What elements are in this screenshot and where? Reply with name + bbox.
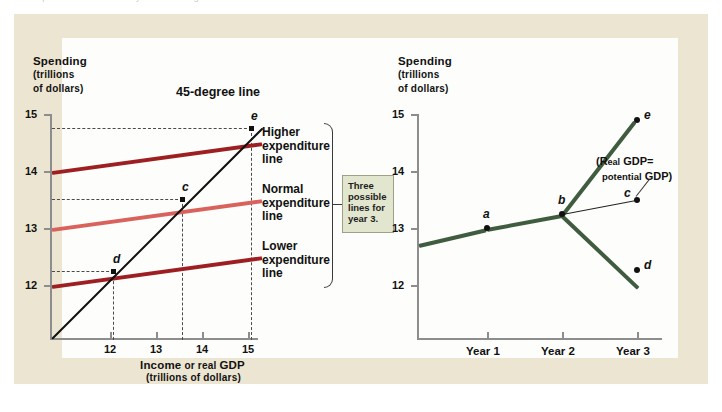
normal-label-row-0: Normal [262,183,330,197]
left-point-d-label: d [113,252,120,266]
callout-line-3: year 3. [348,213,388,224]
left-x-tick-13 [156,332,158,340]
lower-label-row-0: Lower [262,240,330,254]
higher-label-row-1: expenditure [262,140,330,154]
left-x-axis-subtitle: (trillions of dollars) [146,372,241,383]
figure-root: expenditure line for the years 1 through… [0,0,722,412]
right-point-d-label: d [644,258,651,272]
normal-expenditure-line-label: Normal expenditure line [262,183,330,224]
right-y-tick-15 [411,114,419,116]
lower-label-row-1: expenditure [262,254,330,268]
dashed-ref-c-horizontal [52,199,183,200]
normal-label-row-1: expenditure [262,197,330,211]
right-point-a-marker [484,225,490,231]
callout-line-1: possible [348,191,388,202]
potential-gdp-annotation-line1: (Real GDP= [596,155,653,169]
right-y-ticklabel-13: 13 [392,222,404,234]
left-x-ticklabel-15: 15 [242,343,254,355]
left-y-axis-title-line1: Spending [33,55,87,67]
right-y-axis [417,114,419,339]
left-x-tick-12 [110,332,112,340]
left-y-ticklabel-13: 13 [25,222,37,234]
left-y-ticklabel-12: 12 [25,279,37,291]
higher-expenditure-line-label: Higher expenditure line [262,126,330,167]
bracket-leader [332,204,342,205]
lower-label-row-2: line [262,267,330,281]
left-point-e-marker [249,126,254,131]
right-x-ticklabel-year-2: Year 2 [541,345,575,357]
three-lines-bracket [324,123,333,288]
right-x-tick-year-2 [562,332,564,340]
right-y-tick-13 [411,228,419,230]
right-y-axis-title-line2: (trillions [398,69,439,80]
right-y-axis-title-line3: of dollars) [398,83,449,94]
left-point-c-marker [180,197,185,202]
left-x-ticklabel-13: 13 [150,343,162,355]
left-point-c-label: c [182,180,189,194]
right-y-ticklabel-15: 15 [392,108,404,120]
dashed-ref-d-horizontal [52,271,114,272]
left-y-axis-title-line3: of dollars) [33,83,84,94]
normal-label-row-2: line [262,210,330,224]
right-x-ticklabel-year-3: Year 3 [616,345,650,357]
dashed-ref-d-vertical [113,271,114,340]
dashed-ref-e-horizontal [52,128,252,129]
right-point-b-label: b [558,193,565,207]
left-x-ticklabel-14: 14 [196,343,208,355]
left-x-axis [50,338,258,340]
cut-off-text: expenditure line for the years 1 through [32,0,205,2]
higher-label-row-0: Higher [262,126,330,140]
left-x-tick-15 [248,332,250,340]
right-y-tick-14 [411,171,419,173]
right-point-d-marker [634,267,640,273]
right-point-e-label: e [644,108,651,122]
dashed-ref-e-vertical [251,128,252,340]
left-y-tick-15 [44,114,52,116]
left-point-d-marker [111,269,116,274]
callout-line-2: lines for [348,202,388,213]
right-x-ticklabel-year-1: Year 1 [466,345,500,357]
left-y-ticklabel-15: 15 [25,108,37,120]
right-y-ticklabel-12: 12 [392,279,404,291]
left-x-ticklabel-12: 12 [104,343,116,355]
forty-five-degree-label: 45-degree line [176,85,260,99]
left-x-axis-title: Incomeor realGDP [140,359,245,371]
right-point-c-label: c [624,186,631,200]
three-possible-lines-callout: Three possible lines for year 3. [342,175,394,233]
right-x-axis [417,338,662,340]
left-y-axis [50,114,52,339]
right-point-a-label: a [483,207,490,221]
left-point-e-label: e [251,109,258,123]
potential-gdp-annotation-line2: potential GDP) [602,170,672,183]
lower-expenditure-line-label: Lower expenditure line [262,240,330,281]
right-point-b-marker [559,211,565,217]
right-x-tick-year-1 [487,332,489,340]
right-x-tick-year-3 [637,332,639,340]
page-top-text-strip: expenditure line for the years 1 through [0,0,722,13]
right-y-ticklabel-14: 14 [392,165,404,177]
left-x-tick-14 [202,332,204,340]
right-point-e-marker [634,117,640,123]
right-point-c-marker [634,197,640,203]
left-y-axis-title-line2: (trillions [33,69,74,80]
right-y-tick-12 [411,285,419,287]
left-y-ticklabel-14: 14 [25,165,37,177]
callout-line-0: Three [348,180,388,191]
right-y-axis-title-line1: Spending [398,55,452,67]
higher-label-row-2: line [262,153,330,167]
